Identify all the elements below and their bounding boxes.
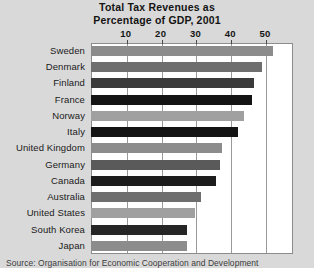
chart-title-line-2: Percentage of GDP, 2001: [0, 14, 314, 27]
bar-sweden: [91, 46, 273, 56]
bar-denmark: [91, 62, 262, 72]
bar-australia: [91, 192, 201, 202]
category-label-united-kingdom: United Kingdom: [16, 140, 85, 156]
bar-italy: [91, 127, 238, 137]
bar-row: [91, 108, 293, 124]
category-label-japan: Japan: [59, 238, 85, 254]
category-label-italy: Italy: [67, 124, 85, 140]
x-tick-label-20: 20: [155, 28, 166, 39]
category-label-south-korea: South Korea: [31, 222, 85, 238]
category-label-finland: Finland: [53, 75, 85, 91]
bar-row: [91, 75, 293, 91]
bar-norway: [91, 111, 244, 121]
bar-row: [91, 92, 293, 108]
bar-row: [91, 222, 293, 238]
bar-united-states: [91, 208, 195, 218]
bar-south-korea: [91, 225, 187, 235]
bar-united-kingdom: [91, 143, 222, 153]
bar-series: [91, 43, 293, 254]
category-label-germany: Germany: [45, 157, 85, 173]
bar-row: [91, 59, 293, 75]
source-note: Source: Organisation for Economic Cooper…: [6, 258, 259, 268]
bar-finland: [91, 78, 254, 88]
bar-row: [91, 238, 293, 254]
bar-germany: [91, 160, 220, 170]
category-label-sweden: Sweden: [50, 43, 85, 59]
bar-row: [91, 189, 293, 205]
chart-title-line-1: Total Tax Revenues as: [0, 1, 314, 14]
bar-japan: [91, 241, 187, 251]
category-label-denmark: Denmark: [46, 59, 85, 75]
category-label-united-states: United States: [27, 205, 85, 221]
bar-row: [91, 205, 293, 221]
x-tick-label-10: 10: [120, 28, 131, 39]
bar-canada: [91, 176, 216, 186]
category-label-france: France: [55, 92, 85, 108]
bar-france: [91, 95, 252, 105]
x-tick-label-30: 30: [190, 28, 201, 39]
chart-title: Total Tax Revenues as Percentage of GDP,…: [0, 1, 314, 27]
bar-row: [91, 157, 293, 173]
bar-row: [91, 43, 293, 59]
bar-row: [91, 124, 293, 140]
bar-row: [91, 173, 293, 189]
chart-figure: Total Tax Revenues as Percentage of GDP,…: [0, 0, 314, 268]
x-tick-label-40: 40: [225, 28, 236, 39]
category-label-canada: Canada: [51, 173, 85, 189]
category-label-australia: Australia: [47, 189, 85, 205]
category-label-norway: Norway: [52, 108, 85, 124]
bar-row: [91, 140, 293, 156]
x-tick-label-50: 50: [260, 28, 271, 39]
y-axis-category-labels: SwedenDenmarkFinlandFranceNorwayItalyUni…: [0, 43, 89, 254]
